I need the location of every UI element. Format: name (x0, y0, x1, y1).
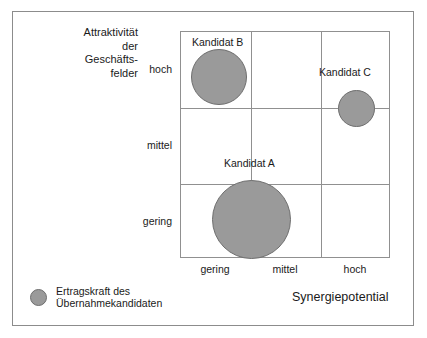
y-tick-hoch: hoch (112, 63, 172, 75)
bubble-chart-figure: Attraktivität der Geschäfts- felder hoch… (0, 0, 427, 338)
bubble-label-kandidat-b: Kandidat B (192, 36, 243, 48)
x-tick-hoch: hoch (320, 263, 390, 275)
x-tick-gering: gering (180, 263, 250, 275)
bubble-kandidat-a[interactable] (212, 180, 291, 259)
bubble-kandidat-b[interactable] (191, 49, 247, 105)
legend: Ertragskraft des Übernahmekandidaten (30, 285, 162, 309)
legend-bubble-icon (30, 289, 47, 306)
y-tick-mittel: mittel (112, 139, 172, 151)
gridline-horizontal-2 (181, 184, 389, 185)
x-axis-tick-labels: gering mittel hoch (180, 263, 390, 277)
bubble-kandidat-c[interactable] (338, 90, 375, 127)
y-axis-tick-labels: hoch mittel gering (112, 31, 172, 258)
x-axis-title: Synergiepotential (292, 290, 389, 305)
legend-label: Ertragskraft des Übernahmekandidaten (56, 285, 162, 309)
bubble-label-kandidat-a: Kandidat A (224, 157, 275, 169)
plot-area: Kandidat B Kandidat C Kandidat A (180, 31, 390, 258)
x-tick-mittel: mittel (250, 263, 320, 275)
y-tick-gering: gering (112, 215, 172, 227)
bubble-label-kandidat-c: Kandidat C (319, 66, 371, 78)
